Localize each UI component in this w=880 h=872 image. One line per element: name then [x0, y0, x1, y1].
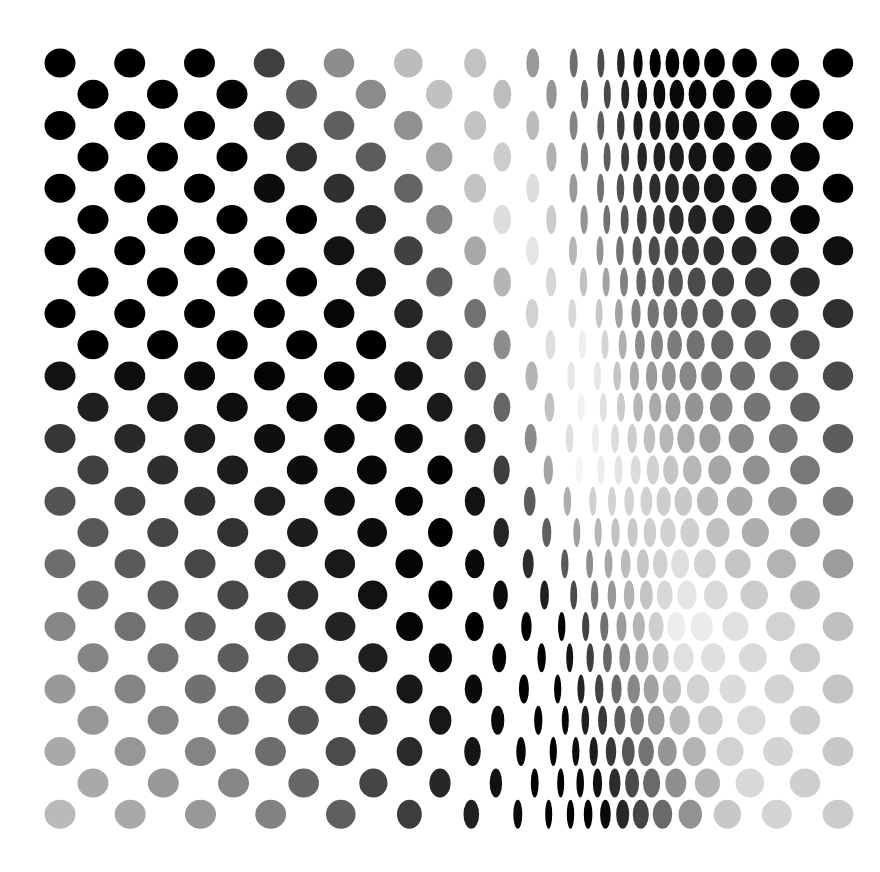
dot	[396, 675, 422, 704]
dot	[653, 800, 672, 829]
dot	[624, 487, 634, 516]
dot	[704, 174, 725, 203]
dot	[218, 643, 249, 672]
dot	[713, 80, 735, 109]
dot	[254, 174, 285, 203]
dot	[519, 675, 529, 704]
dot	[767, 549, 796, 578]
dot	[608, 487, 616, 516]
dot	[254, 49, 285, 78]
dot	[663, 675, 682, 704]
dot	[540, 581, 549, 610]
dot	[790, 330, 819, 359]
dot	[569, 236, 577, 265]
dot	[745, 330, 771, 359]
dot	[637, 142, 647, 171]
dot	[255, 800, 286, 829]
dot	[217, 330, 248, 359]
dot	[464, 236, 486, 265]
dot	[627, 675, 640, 704]
dot	[745, 268, 771, 297]
dot	[617, 393, 625, 422]
dot	[762, 800, 792, 829]
dot	[217, 455, 248, 484]
dot	[286, 330, 317, 359]
dot	[730, 362, 755, 391]
dot	[638, 737, 654, 766]
dot	[45, 111, 76, 140]
dot	[217, 205, 248, 234]
dot	[394, 111, 423, 140]
dot	[679, 362, 696, 391]
dot	[45, 800, 76, 829]
dot	[644, 675, 659, 704]
dot	[185, 549, 216, 578]
dot	[597, 49, 604, 78]
dot	[823, 424, 853, 453]
dot	[660, 518, 676, 547]
dot	[394, 49, 423, 78]
dot	[703, 236, 724, 265]
dot	[580, 205, 587, 234]
dot	[611, 675, 621, 704]
dot	[710, 393, 733, 422]
dot	[582, 612, 589, 641]
dot	[823, 737, 854, 766]
dot	[638, 80, 648, 109]
dot	[624, 581, 635, 610]
dot	[576, 455, 583, 484]
dot	[609, 768, 620, 797]
dot	[465, 612, 484, 641]
dot	[534, 706, 542, 735]
dot	[184, 487, 215, 516]
dot	[727, 487, 753, 516]
dot	[526, 49, 539, 78]
dot	[394, 174, 423, 203]
dot	[606, 737, 616, 766]
dot	[573, 518, 580, 547]
dot	[358, 581, 387, 610]
dot	[426, 142, 452, 171]
dot	[744, 393, 771, 422]
dot	[287, 518, 318, 547]
dot	[699, 424, 720, 453]
dot	[254, 362, 285, 391]
dot	[621, 142, 629, 171]
dot	[712, 268, 734, 297]
dot	[566, 424, 574, 453]
dot	[651, 330, 663, 359]
dot	[493, 205, 511, 234]
dot	[184, 236, 215, 265]
dot	[324, 236, 355, 265]
dot	[324, 487, 355, 516]
dot	[633, 800, 649, 829]
dot	[620, 268, 628, 297]
dot	[766, 612, 795, 641]
dot	[526, 299, 539, 328]
dot	[706, 518, 729, 547]
dot	[537, 643, 545, 672]
dot	[633, 174, 642, 203]
dot	[426, 205, 452, 234]
dot	[701, 643, 725, 672]
dot	[617, 174, 625, 203]
dot	[358, 643, 387, 672]
dot	[649, 236, 660, 265]
dot	[597, 111, 604, 140]
dot	[325, 675, 355, 704]
dot	[732, 111, 757, 140]
dot	[823, 549, 854, 578]
dot	[521, 612, 531, 641]
dot	[621, 549, 631, 578]
dot	[637, 205, 647, 234]
dot	[640, 581, 653, 610]
dot	[771, 49, 799, 78]
dot	[621, 205, 629, 234]
dot	[255, 549, 286, 578]
dot	[613, 362, 621, 391]
dot	[254, 299, 285, 328]
dot	[255, 737, 286, 766]
dot	[635, 643, 648, 672]
dot	[147, 80, 178, 109]
dot	[589, 487, 596, 516]
